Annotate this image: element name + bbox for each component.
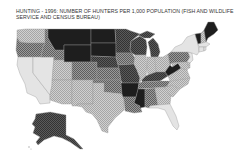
state-ia <box>116 53 135 65</box>
state-fl <box>149 104 179 130</box>
state-az <box>50 80 72 104</box>
state-ny <box>171 34 199 55</box>
state-ri <box>204 47 206 51</box>
state-nm <box>72 80 93 106</box>
state-me <box>204 22 218 42</box>
state-hi-2 <box>30 148 31 149</box>
state-ks <box>97 68 121 80</box>
state-co <box>72 62 97 80</box>
us-choropleth-map <box>0 0 240 160</box>
state-hi <box>28 146 30 148</box>
state-nd <box>91 29 116 43</box>
state-ak <box>32 112 83 149</box>
state-ar <box>121 83 139 97</box>
state-wy <box>64 45 91 62</box>
state-sd <box>91 43 116 57</box>
state-mi <box>148 38 160 57</box>
state-wa <box>17 29 45 43</box>
state-ct <box>199 47 204 52</box>
